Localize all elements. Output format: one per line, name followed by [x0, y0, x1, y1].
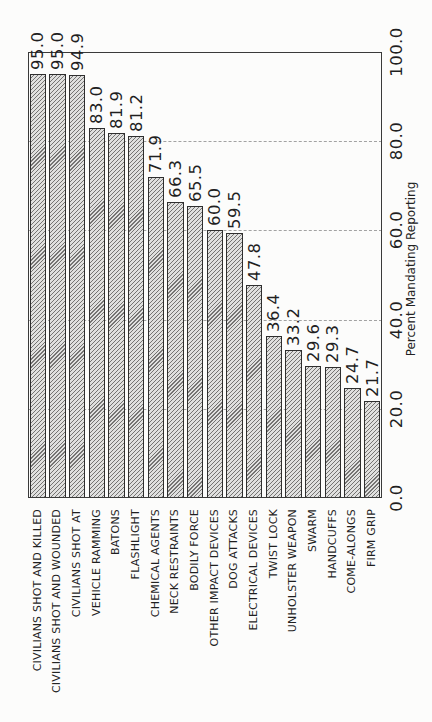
category-label: UNHOLSTER WEAPON [287, 509, 300, 632]
value-label: 66.3 [167, 160, 184, 198]
bar-neck-restraints [167, 202, 183, 498]
plot-area [28, 52, 382, 498]
y-axis-title: Percent Mandating Reporting [404, 182, 419, 357]
bar-vehicle-ramming [89, 128, 105, 498]
bar-swarm [305, 366, 321, 498]
value-label: 33.2 [285, 308, 302, 346]
value-label: 24.7 [344, 345, 361, 383]
y-tick-label-20: 20.0 [388, 390, 405, 428]
category-label: FLASHLIGHT [130, 509, 143, 579]
value-label: 95.0 [29, 32, 46, 70]
category-label: OTHER IMPACT DEVICES [209, 509, 222, 646]
category-label: DOG ATTACKS [228, 509, 241, 589]
value-label: 83.0 [88, 85, 105, 123]
bar-electrical-devices [246, 285, 262, 498]
category-label: ELECTRICAL DEVICES [248, 509, 261, 631]
category-label: HANDCUFFS [327, 509, 340, 578]
category-label: SWARM [307, 509, 320, 552]
value-label: 94.9 [69, 32, 86, 70]
bar-unholster-weapon [285, 350, 301, 498]
bar-batons [108, 133, 124, 498]
category-label: NECK RESTRAINTS [169, 509, 182, 614]
category-label: BODILY FORCE [189, 509, 202, 591]
category-label: CIVILIANS SHOT AND KILLED [32, 509, 45, 671]
value-label: 65.5 [187, 164, 204, 202]
bar-other-impact-devices [207, 230, 223, 498]
bar-handcuffs [325, 367, 341, 498]
category-label: CIVILIANS SHOT AND WOUNDED [51, 509, 64, 693]
value-label: 21.7 [364, 359, 381, 397]
category-label: BATONS [110, 509, 123, 555]
bar-civilians-shot-and-wounded [49, 74, 65, 498]
bar-come-alongs [344, 388, 360, 498]
category-label: FIRM GRIP [366, 509, 379, 567]
bars [28, 52, 382, 498]
y-tick-label-60: 60.0 [388, 211, 405, 249]
y-tick-label-100: 100.0 [388, 27, 405, 76]
category-label: COME-ALONGS [346, 509, 359, 593]
value-label: 81.9 [108, 90, 125, 128]
y-tick-label-80: 80.0 [388, 122, 405, 160]
bar-bodily-force [187, 206, 203, 498]
value-label: 60.0 [206, 188, 223, 226]
bar-firm-grip [364, 401, 380, 498]
value-label: 71.9 [147, 135, 164, 173]
bar-chemical-agents [148, 177, 164, 498]
bar-flashlight [128, 136, 144, 498]
category-label: VEHICLE RAMMING [91, 509, 104, 616]
value-label: 29.3 [324, 325, 341, 363]
category-label: CHEMICAL AGENTS [150, 509, 163, 617]
bar-civilians-shot-and-killed [30, 74, 46, 498]
y-tick-label-40: 40.0 [388, 300, 405, 338]
value-label: 81.2 [128, 94, 145, 132]
value-label: 36.4 [265, 293, 282, 331]
bar-dog-attacks [226, 233, 242, 498]
y-tick-label-0: 0.0 [388, 484, 405, 511]
value-label: 47.8 [246, 242, 263, 280]
figure: 95.095.094.983.081.981.271.966.365.560.0… [0, 0, 432, 722]
bar-civilians-shot-at [69, 75, 85, 498]
category-label: TWIST LOCK [268, 509, 281, 578]
category-label: CIVILIANS SHOT AT [71, 509, 84, 617]
value-label: 29.6 [305, 324, 322, 362]
bar-twist-lock [266, 336, 282, 498]
value-label: 95.0 [49, 32, 66, 70]
value-label: 59.5 [226, 190, 243, 228]
